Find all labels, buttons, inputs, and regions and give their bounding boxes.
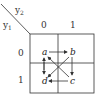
row-header-1: 1 xyxy=(18,75,24,85)
state-a: a xyxy=(42,47,47,57)
state-d: d xyxy=(42,76,48,86)
row-header-0: 0 xyxy=(18,48,24,58)
state-b: b xyxy=(70,47,76,57)
kmap-diagram: y2 y1 0 1 0 1 a b c d xyxy=(0,0,102,101)
col-header-0: 0 xyxy=(41,20,47,30)
state-c: c xyxy=(70,76,75,86)
col-header-1: 1 xyxy=(70,20,76,30)
y2-label: y2 xyxy=(14,5,24,16)
y1-label: y1 xyxy=(2,20,12,31)
